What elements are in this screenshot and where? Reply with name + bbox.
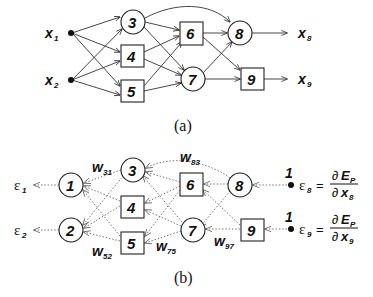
svg-text:6: 6: [186, 176, 195, 193]
svg-text:83: 83: [191, 158, 200, 167]
svg-text:ε: ε: [299, 177, 305, 193]
error-eps1: ε 1: [14, 177, 27, 195]
svg-text:E: E: [341, 168, 350, 183]
output-x8: x 8: [297, 25, 312, 43]
node-b-3: 3: [121, 158, 145, 182]
node-a-5: 5: [121, 80, 144, 102]
weight-w97: w 97: [214, 233, 234, 251]
svg-text:x: x: [340, 185, 349, 200]
node-a-7: 7: [181, 67, 205, 91]
weight-w75: w 75: [156, 238, 176, 256]
svg-text:7: 7: [188, 71, 197, 88]
svg-text:9: 9: [247, 71, 256, 88]
svg-text:1: 1: [22, 186, 27, 195]
seed-one: 1: [285, 165, 293, 181]
node-b-8: 8: [228, 173, 252, 197]
weight-w31: w 31: [92, 159, 112, 177]
svg-text:8: 8: [307, 34, 312, 43]
seed-dot: [288, 182, 294, 188]
node-b-6: 6: [180, 173, 203, 196]
seed-eps9: 1 ε 9 = ∂ E P ∂ x 9: [285, 209, 358, 246]
node-a-8: 8: [228, 21, 252, 45]
input-x1: x 1: [44, 25, 74, 43]
svg-text:52: 52: [103, 252, 112, 261]
seed-dot: [288, 226, 294, 232]
svg-text:6: 6: [186, 25, 195, 42]
svg-text:8: 8: [235, 177, 244, 194]
svg-text:x: x: [297, 25, 307, 41]
svg-text:31: 31: [103, 168, 112, 177]
svg-text:5: 5: [127, 83, 136, 100]
seed-one: 1: [285, 209, 293, 225]
svg-text:x: x: [340, 229, 349, 244]
svg-text:3: 3: [128, 162, 137, 179]
svg-text:2: 2: [53, 81, 59, 90]
svg-text:E: E: [341, 212, 350, 227]
node-b-5: 5: [121, 232, 144, 254]
svg-text:9: 9: [307, 230, 312, 239]
node-a-3: 3: [121, 10, 145, 34]
weight-w52: w 52: [92, 243, 112, 261]
weight-w83: w 83: [180, 149, 200, 167]
svg-text:8: 8: [307, 186, 312, 195]
seed-eps8: 1 ε 8 = ∂ E P ∂ x 8: [285, 165, 358, 202]
svg-text:∂: ∂: [332, 212, 338, 227]
node-a-6: 6: [180, 22, 203, 45]
svg-text:=: =: [316, 178, 324, 193]
caption-a: (a): [174, 117, 192, 135]
node-b-7: 7: [181, 218, 205, 242]
input-label: x: [44, 72, 54, 88]
svg-text:8: 8: [349, 193, 354, 202]
caption-b: (b): [174, 269, 193, 287]
node-b-2: 2: [59, 218, 83, 242]
svg-text:4: 4: [126, 199, 136, 216]
output-x9: x 9: [297, 71, 312, 89]
svg-text:∂: ∂: [332, 185, 338, 200]
svg-text:9: 9: [247, 222, 256, 239]
node-b-9: 9: [241, 219, 264, 241]
svg-text:2: 2: [65, 222, 75, 239]
svg-text:9: 9: [307, 80, 312, 89]
node-a-9: 9: [241, 68, 264, 90]
svg-text:2: 2: [21, 231, 27, 240]
input-x2: x 2: [44, 72, 74, 90]
node-a-4: 4: [121, 45, 144, 67]
svg-text:7: 7: [188, 222, 197, 239]
svg-text:=: =: [316, 222, 324, 237]
svg-text:8: 8: [235, 25, 244, 42]
node-b-4: 4: [121, 196, 144, 218]
svg-text:97: 97: [225, 242, 234, 251]
panel-b: ε 1 ε 2 1 2 3 4 5 6: [14, 149, 358, 287]
svg-text:ε: ε: [14, 222, 20, 238]
svg-text:75: 75: [167, 247, 176, 256]
node-b-1: 1: [59, 173, 83, 197]
error-eps2: ε 2: [14, 222, 27, 240]
panel-a: x 1 x 2 3 4 5 6 7 8: [44, 6, 312, 135]
svg-text:3: 3: [128, 14, 137, 31]
svg-text:5: 5: [127, 235, 136, 252]
svg-text:∂: ∂: [332, 229, 338, 244]
network-diagram: x 1 x 2 3 4 5 6 7 8: [0, 0, 373, 297]
svg-text:4: 4: [126, 48, 136, 65]
svg-text:1: 1: [66, 177, 74, 194]
input-dot: [68, 77, 74, 83]
svg-text:9: 9: [349, 237, 354, 246]
svg-text:1: 1: [54, 34, 59, 43]
svg-text:ε: ε: [299, 221, 305, 237]
svg-text:ε: ε: [14, 177, 20, 193]
svg-text:∂: ∂: [332, 168, 338, 183]
input-label: x: [44, 25, 54, 41]
input-dot: [68, 30, 74, 36]
svg-text:x: x: [297, 71, 307, 87]
